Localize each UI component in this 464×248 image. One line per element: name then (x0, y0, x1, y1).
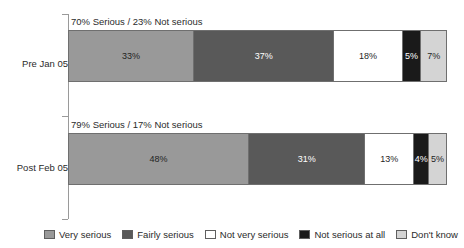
y-axis-tick-bottom (62, 219, 68, 220)
bar-segment: 7% (420, 30, 447, 82)
legend-swatch-icon (44, 230, 55, 239)
bar-segment-value-label: 13% (380, 154, 398, 164)
bar-group-post-feb-05: 79% Serious / 17% Not serious 48%31%13%4… (68, 119, 447, 185)
bar-segment-value-label: 5% (405, 51, 418, 61)
bar-segment: 5% (428, 133, 447, 185)
legend-item[interactable]: Don't know (396, 229, 458, 240)
bar-annotation-post-feb-05: 79% Serious / 17% Not serious (68, 119, 447, 133)
legend-item-label: Not very serious (220, 229, 289, 240)
bar-segment-value-label: 5% (431, 154, 444, 164)
bar-segment-value-label: 37% (255, 51, 273, 61)
bar-segment: 4% (413, 133, 428, 185)
legend-swatch-icon (299, 230, 310, 239)
category-label-wrap-0: Pre Jan 05 (0, 58, 68, 69)
legend-item-label: Don't know (411, 229, 458, 240)
legend-swatch-icon (122, 230, 133, 239)
y-axis-tick-top (62, 14, 68, 15)
category-label-post-feb-05: Post Feb 05 (4, 162, 68, 173)
y-axis-tick-middle (62, 116, 68, 117)
bar-segment: 31% (248, 133, 364, 185)
bar-annotation-pre-jan-05: 70% Serious / 23% Not serious (68, 16, 447, 30)
legend-item[interactable]: Not very serious (205, 229, 289, 240)
category-label-pre-jan-05: Pre Jan 05 (4, 58, 68, 69)
legend-swatch-icon (205, 230, 216, 239)
legend-item[interactable]: Very serious (44, 229, 111, 240)
bar-group-pre-jan-05: 70% Serious / 23% Not serious 33%37%18%5… (68, 16, 447, 82)
bar-segment: 18% (333, 30, 401, 82)
legend-item-label: Very serious (59, 229, 111, 240)
bar-segment: 37% (193, 30, 333, 82)
bar-segment: 5% (402, 30, 421, 82)
bar-segment-value-label: 33% (122, 51, 140, 61)
legend-swatch-icon (396, 230, 407, 239)
bar-segment-value-label: 48% (150, 154, 168, 164)
bar-segment-value-label: 4% (415, 154, 428, 164)
bar-segment: 33% (68, 30, 193, 82)
legend-item-label: Not serious at all (314, 229, 385, 240)
legend-item[interactable]: Fairly serious (122, 229, 194, 240)
stacked-bar-pre-jan-05: 33%37%18%5%7% (68, 30, 447, 82)
category-label-wrap-1: Post Feb 05 (0, 162, 68, 173)
bar-segment-value-label: 7% (427, 51, 440, 61)
stacked-bar-post-feb-05: 48%31%13%4%5% (68, 133, 447, 185)
legend-item-label: Fairly serious (137, 229, 194, 240)
bar-segment-value-label: 31% (298, 154, 316, 164)
bar-segment-value-label: 18% (359, 51, 377, 61)
legend-item[interactable]: Not serious at all (299, 229, 385, 240)
bar-segment: 13% (364, 133, 413, 185)
chart-legend: Very seriousFairly seriousNot very serio… (44, 227, 458, 241)
stacked-bar-chart: Pre Jan 05 Post Feb 05 70% Serious / 23%… (0, 0, 464, 248)
bar-segment: 48% (68, 133, 248, 185)
